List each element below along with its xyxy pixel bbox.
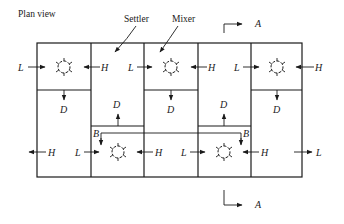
stream-label-heavy: H [154, 147, 163, 158]
stream-label-light: L [315, 147, 322, 158]
settler-dispersion-label: D [112, 99, 121, 110]
impeller-icon [163, 58, 179, 76]
mixer-callout-label: Mixer [172, 14, 196, 24]
stream-label-dispersion: D [59, 104, 68, 115]
settler-callout-arrow [115, 26, 136, 52]
stream-label-light: L [233, 62, 240, 73]
settler-callout-label: Settler [124, 14, 150, 24]
impeller-icon [269, 58, 285, 76]
mixer-callout-arrow [160, 26, 178, 52]
stream-label-heavy: H [207, 62, 216, 73]
plan-view-title: Plan view [18, 9, 56, 19]
stream-label-heavy: H [47, 147, 56, 158]
impeller-icon [110, 143, 126, 161]
stream-label-light: L [74, 147, 81, 158]
section-a-bottom-arrow [224, 190, 242, 205]
section-a-top-label: A [254, 18, 262, 29]
stream-label-dispersion: D [166, 104, 175, 115]
stream-label-heavy: H [314, 62, 323, 73]
section-a-bottom-label: A [254, 199, 262, 210]
stream-label-light: L [180, 147, 187, 158]
bypass-label: B [243, 128, 249, 139]
stream-label-heavy: H [100, 62, 109, 73]
impeller-icon [56, 58, 72, 76]
stream-label-light: L [127, 62, 134, 73]
bypass-line [101, 133, 241, 144]
mixer-settler-plan-diagram: Plan view Settler Mixer A A L H L H L H … [0, 0, 344, 224]
settler-dispersion-label: D [219, 99, 228, 110]
stream-label-dispersion: D [272, 104, 281, 115]
stream-label-light: L [17, 62, 24, 73]
section-a-top-arrow [224, 24, 242, 33]
bypass-label: B [93, 128, 99, 139]
impeller-icon [216, 143, 232, 161]
stream-label-heavy: H [260, 147, 269, 158]
